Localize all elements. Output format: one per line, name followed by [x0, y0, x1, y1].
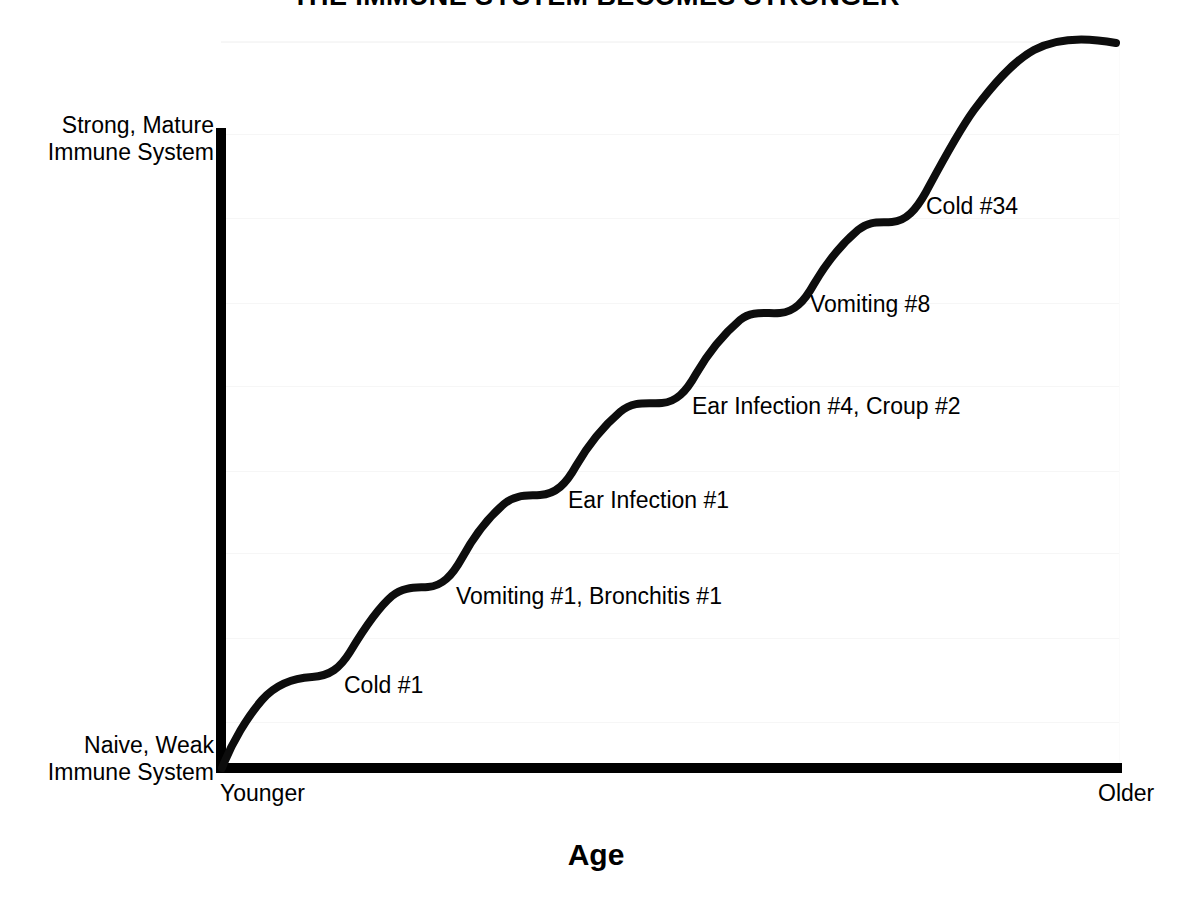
x-axis-line	[216, 763, 1122, 773]
y-axis-bottom-label: Naive, Weak Immune System	[48, 732, 214, 786]
event-label-ear-infection-1: Ear Infection #1	[568, 487, 729, 513]
chart-canvas: THE IMMUNE SYSTEM BECOMES STRONGER Stron…	[0, 0, 1192, 922]
y-axis-top-label-line2: Immune System	[48, 139, 214, 166]
y-axis-top-label: Strong, Mature Immune System	[48, 112, 214, 166]
gridline	[221, 638, 1119, 639]
y-axis-bottom-label-line2: Immune System	[48, 759, 214, 786]
gridline	[221, 386, 1119, 387]
gridline	[221, 134, 1119, 135]
gridline	[221, 722, 1119, 723]
gridline	[221, 471, 1119, 472]
event-label-vomiting-1-bronchitis-1: Vomiting #1, Bronchitis #1	[456, 583, 722, 609]
event-label-cold-1: Cold #1	[344, 672, 423, 698]
event-label-vomiting-8: Vomiting #8	[810, 291, 930, 317]
gridline	[221, 303, 1119, 304]
y-axis-bottom-label-line1: Naive, Weak	[48, 732, 214, 759]
chart-title: THE IMMUNE SYSTEM BECOMES STRONGER	[0, 0, 1192, 12]
gridline	[221, 42, 1119, 43]
x-axis-tick-younger: Younger	[220, 780, 305, 807]
y-axis-line	[216, 128, 226, 773]
event-label-ear-infection-4-croup-2: Ear Infection #4, Croup #2	[692, 393, 961, 419]
x-axis-tick-older: Older	[1098, 780, 1154, 807]
y-axis-top-label-line1: Strong, Mature	[48, 112, 214, 139]
gridline	[221, 553, 1119, 554]
plot-area	[221, 41, 1120, 769]
x-axis-title: Age	[0, 838, 1192, 872]
event-label-cold-34: Cold #34	[926, 193, 1018, 219]
